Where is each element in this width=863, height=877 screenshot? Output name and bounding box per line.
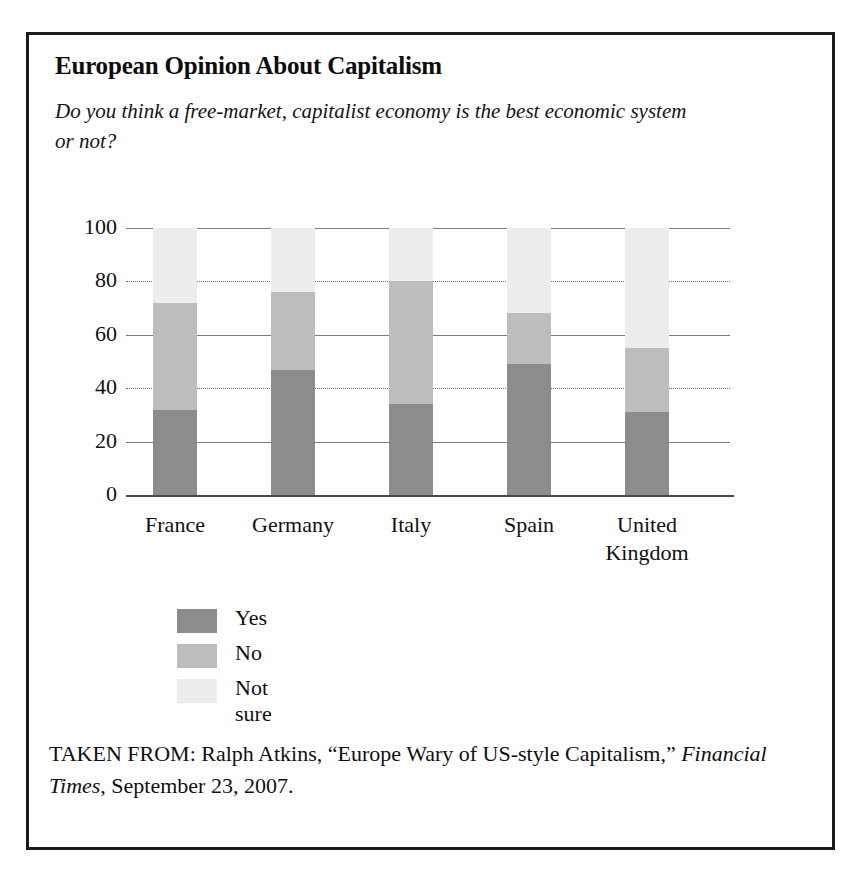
- bar-segment-no[interactable]: [389, 281, 433, 404]
- category-label-line: France: [145, 512, 205, 537]
- bar-stack[interactable]: [625, 228, 669, 495]
- y-tick-label-0: 0: [59, 483, 117, 505]
- bar-segment-yes[interactable]: [389, 404, 433, 495]
- y-tick-label-60: 60: [59, 323, 117, 345]
- bar-segment-not-sure[interactable]: [625, 228, 669, 348]
- bar-stack[interactable]: [389, 228, 433, 495]
- bar-segment-yes[interactable]: [153, 410, 197, 495]
- y-tick-label-20: 20: [59, 430, 117, 452]
- legend-label: Yes: [235, 605, 267, 631]
- bar-segment-yes[interactable]: [271, 370, 315, 495]
- category-label-line: Spain: [504, 512, 554, 537]
- legend-swatch-icon: [177, 644, 217, 668]
- bar-stack[interactable]: [153, 228, 197, 495]
- bar-stack[interactable]: [507, 228, 551, 495]
- category-label-line: Germany: [252, 512, 334, 537]
- legend-label: No: [235, 640, 262, 666]
- y-tick-label-80: 80: [59, 269, 117, 291]
- bar-segment-not-sure[interactable]: [389, 228, 433, 281]
- source-suffix: , September 23, 2007.: [100, 773, 293, 798]
- bar-segment-no[interactable]: [625, 348, 669, 412]
- source-citation: TAKEN FROM: Ralph Atkins, “Europe Wary o…: [49, 738, 789, 802]
- source-prefix: TAKEN FROM: Ralph Atkins, “Europe Wary o…: [49, 741, 681, 766]
- legend-swatch-icon: [177, 679, 217, 703]
- figure-frame: European Opinion About Capitalism Do you…: [26, 32, 835, 850]
- bar-segment-yes[interactable]: [625, 412, 669, 495]
- category-label-line: Kingdom: [605, 540, 688, 565]
- legend-label: Not sure: [235, 675, 272, 727]
- bar-segment-yes[interactable]: [507, 364, 551, 495]
- bar-segment-not-sure[interactable]: [271, 228, 315, 292]
- y-tick-label-100: 100: [59, 216, 117, 238]
- x-category-label-united-kingdom: UnitedKingdom: [572, 511, 722, 566]
- category-label-line: Italy: [391, 512, 431, 537]
- bar-segment-no[interactable]: [153, 303, 197, 410]
- legend-swatch-icon: [177, 609, 217, 633]
- bar-segment-no[interactable]: [507, 313, 551, 364]
- bar-segment-not-sure[interactable]: [507, 228, 551, 313]
- bar-segment-not-sure[interactable]: [153, 228, 197, 303]
- x-axis-line: [126, 495, 734, 497]
- y-tick-label-40: 40: [59, 376, 117, 398]
- bar-segment-no[interactable]: [271, 292, 315, 369]
- bar-stack[interactable]: [271, 228, 315, 495]
- category-label-line: United: [617, 512, 677, 537]
- stacked-bar-chart: 020406080100 FranceGermanyItalySpainUnit…: [29, 35, 838, 853]
